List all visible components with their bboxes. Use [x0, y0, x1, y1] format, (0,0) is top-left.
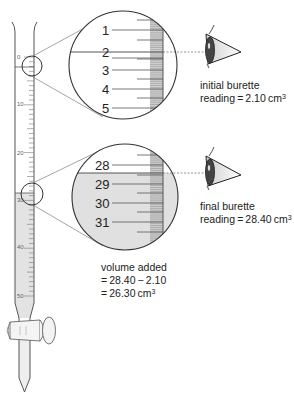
volume-added-label: volume added = 28.40 − 2.10 = 26.30 cm3 [101, 261, 167, 300]
final-reading-value: reading = 28.40 cm3 [200, 213, 292, 226]
svg-text:50: 50 [17, 293, 24, 299]
svg-text:2: 2 [102, 45, 109, 60]
svg-text:40: 40 [17, 244, 24, 250]
magnifier-initial: 1 2 3 4 5 [60, 0, 180, 134]
svg-text:29: 29 [95, 177, 109, 192]
volume-added-calc: = 28.40 − 2.10 [101, 274, 167, 287]
svg-text:1: 1 [102, 23, 109, 38]
svg-text:30: 30 [95, 196, 109, 211]
zoom-region-initial [22, 56, 42, 76]
svg-text:3: 3 [102, 63, 109, 78]
stopcock-icon [7, 317, 56, 344]
svg-text:0: 0 [17, 54, 21, 60]
volume-added-title: volume added [101, 261, 167, 274]
eye-icon [206, 25, 242, 68]
initial-reading-title: initial burette [200, 79, 286, 92]
burette-diagram: 0 10 20 30 40 50 [0, 0, 294, 396]
initial-reading-value: reading = 2.10 cm3 [200, 92, 286, 105]
svg-text:4: 4 [102, 82, 109, 97]
volume-added-result: = 26.30 cm3 [101, 287, 167, 300]
svg-text:28: 28 [95, 158, 109, 173]
initial-reading-label: initial burette reading = 2.10 cm3 [200, 79, 286, 105]
svg-text:20: 20 [17, 150, 24, 156]
eye-icon [206, 147, 242, 190]
svg-text:5: 5 [102, 101, 109, 116]
magnifier-final: 28 29 30 31 [60, 140, 190, 263]
final-reading-title: final burette [200, 200, 292, 213]
svg-text:10: 10 [17, 101, 24, 107]
svg-text:31: 31 [95, 215, 109, 230]
final-reading-label: final burette reading = 28.40 cm3 [200, 200, 292, 226]
